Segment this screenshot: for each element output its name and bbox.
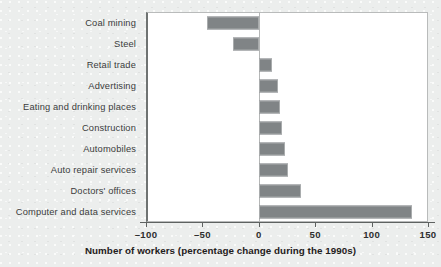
- x-axis-tick-label: –100: [135, 229, 158, 240]
- category-label: Eating and drinking places: [23, 102, 136, 112]
- bar: [259, 100, 280, 113]
- x-axis-line: [140, 222, 435, 223]
- x-axis-tick: [202, 222, 203, 227]
- x-axis-tick-label: 0: [256, 229, 262, 240]
- bar: [259, 79, 278, 92]
- chart-figure: Coal miningSteelRetail tradeAdvertisingE…: [0, 0, 441, 267]
- bar: [259, 205, 412, 218]
- bar: [259, 121, 283, 134]
- category-label: Advertising: [88, 81, 136, 91]
- category-label: Construction: [82, 123, 136, 133]
- category-label: Automobiles: [83, 144, 136, 154]
- bars-layer: [146, 12, 428, 222]
- category-label: Coal mining: [85, 18, 136, 28]
- x-axis-tick-label: –50: [194, 229, 211, 240]
- x-axis-tick: [315, 222, 316, 227]
- category-label: Retail trade: [87, 60, 136, 70]
- x-axis-tick: [428, 222, 429, 227]
- x-axis-tick-label: 100: [363, 229, 380, 240]
- bar: [259, 163, 288, 176]
- bar: [259, 142, 285, 155]
- bar: [233, 37, 259, 50]
- bar: [259, 58, 273, 71]
- x-axis-tick: [146, 222, 147, 227]
- category-axis-labels: Coal miningSteelRetail tradeAdvertisingE…: [0, 12, 141, 222]
- bar: [207, 16, 259, 29]
- category-label: Doctors' offices: [71, 186, 137, 196]
- x-axis-title: Number of workers (percentage change dur…: [0, 245, 441, 256]
- x-axis-tick: [259, 222, 260, 227]
- category-label: Computer and data services: [16, 207, 136, 217]
- x-axis-tick: [372, 222, 373, 227]
- x-axis-tick-label: 50: [310, 229, 321, 240]
- category-label: Auto repair services: [51, 165, 136, 175]
- bar: [259, 184, 301, 197]
- x-axis-tick-label: 150: [420, 229, 437, 240]
- category-label: Steel: [114, 39, 136, 49]
